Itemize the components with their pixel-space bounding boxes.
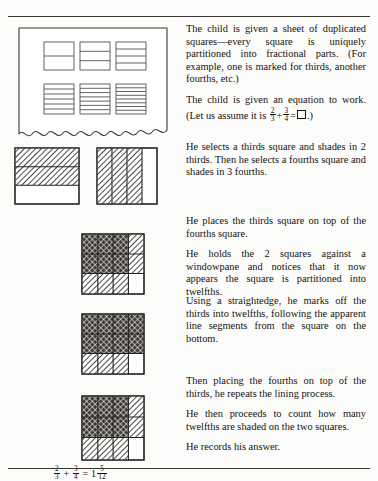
empty-box-icon <box>297 110 306 119</box>
text-block-5: Then placing the fourths on top of the t… <box>186 375 366 454</box>
fraction-two-thirds: 23 <box>270 107 276 123</box>
paragraph: The child is given a sheet of duplicated… <box>186 23 366 86</box>
denominator: 4 <box>73 473 79 481</box>
paragraph: He records his answer. <box>186 441 366 454</box>
equals-sign: = <box>290 110 296 121</box>
numerator: 3 <box>73 466 79 473</box>
equation-sentence: (Let us assume it is 23+34=.) <box>186 110 313 121</box>
denominator: 3 <box>54 473 60 481</box>
plus-sign: + <box>64 468 70 479</box>
equals-sign: = <box>83 468 89 479</box>
paragraph: He selects a thirds square and shades in… <box>186 141 366 179</box>
fraction-two-thirds: 2 3 <box>54 466 60 481</box>
figure-column: 2 3 + 3 4 = 1512 <box>0 17 186 468</box>
two-column-layout: 2 3 + 3 4 = 1512 The child is given a sh… <box>0 17 378 468</box>
whole-part: 1 <box>91 468 96 479</box>
paragraph: He holds the 2 squares against a windowp… <box>186 248 366 298</box>
equation-suffix: .) <box>307 110 313 121</box>
figure-fourths-three-fourths-shaded <box>96 147 158 205</box>
fraction-three-fourths: 3 4 <box>73 466 79 481</box>
figure-overlay-twelfths <box>81 233 145 295</box>
figure-page: 2 3 + 3 4 = 1512 The child is given a sh… <box>0 0 378 481</box>
numerator: 2 <box>270 107 276 114</box>
denominator: 12 <box>97 473 107 481</box>
text-block-4: Using a straightedge, he marks off the t… <box>186 295 366 345</box>
paragraph: He places the thirds square on top of th… <box>186 215 366 240</box>
figure-marked-twelfths <box>81 313 145 375</box>
text-column: The child is given a sheet of duplicated… <box>186 17 372 468</box>
denominator: 3 <box>270 114 276 122</box>
fraction-five-twelfths: 512 <box>97 466 107 481</box>
figure-sheet-of-squares <box>17 26 169 144</box>
text-block-2: He selects a thirds square and shades in… <box>186 141 366 179</box>
figure-thirds-two-thirds-shaded <box>14 147 80 205</box>
equation-prefix: (Let us assume it is <box>186 110 269 121</box>
paragraph: The child is given an equation to work. … <box>186 94 366 122</box>
numerator: 5 <box>97 466 107 473</box>
answer-equation: 2 3 + 3 4 = 1512 <box>53 466 108 481</box>
paragraph: He then proceeds to count how many twelf… <box>186 408 366 433</box>
numerator: 2 <box>54 466 60 473</box>
numerator: 3 <box>283 107 289 114</box>
mixed-number-answer: 1512 <box>91 466 108 481</box>
fraction-three-fourths: 34 <box>283 107 289 123</box>
sentence: The child is given an equation to work. <box>186 94 366 105</box>
text-block-1: The child is given a sheet of duplicated… <box>186 23 366 122</box>
paragraph: Then placing the fourths on top of the t… <box>186 375 366 400</box>
paragraph: Using a straightedge, he marks off the t… <box>186 295 366 345</box>
plus-sign: + <box>277 110 283 121</box>
text-block-3: He places the thirds square on top of th… <box>186 215 366 299</box>
figure-final-twelfths-count <box>81 395 145 461</box>
denominator: 4 <box>283 114 289 122</box>
